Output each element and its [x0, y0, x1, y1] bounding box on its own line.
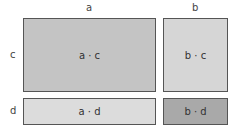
column-label-b: b [192, 3, 198, 13]
cell-b-c: b · c [163, 18, 228, 92]
cell-b-d-label: b · d [184, 106, 206, 117]
row-label-d: d [10, 106, 16, 116]
column-label-a: a [86, 3, 92, 13]
cell-a-d-label: a · d [78, 106, 100, 117]
cell-a-c: a · c [23, 18, 156, 92]
row-label-c: c [10, 50, 16, 60]
cell-a-c-label: a · c [79, 50, 100, 61]
cell-b-c-label: b · c [185, 50, 206, 61]
cell-a-d: a · d [23, 98, 156, 125]
cell-b-d: b · d [163, 98, 228, 125]
